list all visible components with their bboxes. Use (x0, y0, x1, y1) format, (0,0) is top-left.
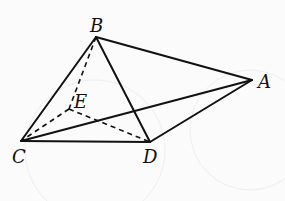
vertex-label-a: A (256, 71, 271, 92)
edge-cd (21, 141, 150, 142)
edge-da (150, 80, 252, 142)
edge-ba (96, 37, 252, 80)
vertex-label-d: D (142, 146, 158, 167)
vertex-label-b: B (89, 15, 103, 36)
edge-bc (21, 37, 96, 141)
edge-ec-dashed (21, 109, 69, 141)
edges-group (21, 37, 252, 142)
background-texture (25, 70, 285, 201)
vertex-label-e: E (73, 91, 87, 112)
edge-bd (96, 37, 150, 142)
edge-ca (21, 80, 252, 141)
vertex-label-c: C (12, 146, 26, 167)
geometry-diagram: B A C D E (0, 0, 285, 201)
